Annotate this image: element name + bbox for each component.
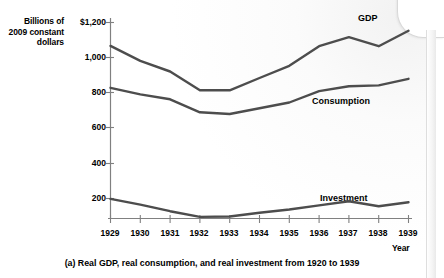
series-line-consumption [111,79,409,114]
series-lines [111,31,409,217]
series-line-gdp [111,31,409,91]
series-line-investment [111,199,409,217]
figure-caption: (a) Real GDP, real consumption, and real… [0,258,424,268]
axes [106,18,412,223]
